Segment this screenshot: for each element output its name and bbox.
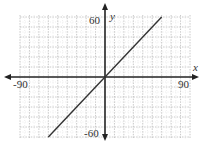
- y-max-label: 60: [89, 14, 101, 26]
- x-max-label: 90: [178, 78, 190, 90]
- y-axis-down-arrow-icon: [102, 134, 108, 141]
- y-axis-label: y: [109, 10, 115, 22]
- x-axis-right-arrow-icon: [192, 74, 199, 80]
- x-axis-label: x: [192, 61, 198, 73]
- x-axis-left-arrow-icon: [4, 74, 11, 80]
- y-axis-up-arrow-icon: [102, 3, 108, 10]
- x-min-label: -90: [13, 78, 28, 90]
- line-chart: x y -90 90 60 -60: [0, 0, 202, 142]
- y-min-label: -60: [84, 127, 99, 139]
